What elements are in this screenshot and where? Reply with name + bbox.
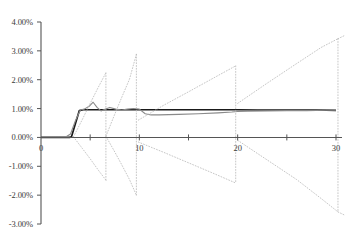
series-band-cone-2-lower: [106, 136, 136, 195]
y-tick-label: 1.00%: [0, 104, 33, 114]
series-band-cone-4-lower: [238, 140, 338, 212]
axes-group: [37, 22, 342, 224]
series-band-cone-3-upper: [138, 66, 235, 120]
y-tick-label: -3.00%: [0, 219, 33, 229]
y-tick-label: -2.00%: [0, 190, 33, 200]
series-secondary-wobble: [41, 102, 336, 137]
chart-plot-area: [0, 0, 350, 236]
y-tick-label: 3.00%: [0, 46, 33, 56]
series-band-tail-upper: [338, 36, 344, 39]
series-group: [41, 36, 344, 215]
y-tick-label: 4.00%: [0, 17, 33, 27]
series-band-cone-4-upper: [238, 39, 338, 104]
series-band-cone-1-lower: [73, 137, 105, 180]
x-tick-label: 20: [234, 143, 242, 153]
series-band-tail-lower: [338, 212, 344, 215]
series-band-cone-3-lower: [138, 142, 235, 183]
x-tick-label: 30: [332, 143, 340, 153]
x-tick-label: 10: [135, 143, 143, 153]
x-tick-label: 0: [39, 143, 43, 153]
series-band-cone-1-upper: [73, 73, 105, 137]
chart-container: 4.00%3.00%2.00%1.00%0.00%-1.00%-2.00%-3.…: [0, 0, 350, 236]
series-band-cone-2-upper: [106, 54, 136, 136]
y-tick-label: -1.00%: [0, 161, 33, 171]
y-tick-label: 2.00%: [0, 75, 33, 85]
y-tick-label: 0.00%: [0, 132, 33, 142]
